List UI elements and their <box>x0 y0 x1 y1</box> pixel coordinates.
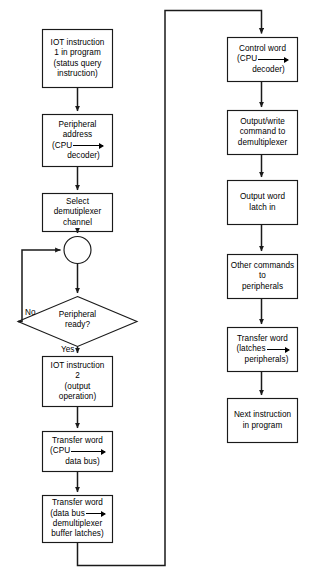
flowchart-canvas: IOT instruction 1 in program (status que… <box>0 0 309 575</box>
node-iot1-shape <box>43 30 113 88</box>
node-transfer-word-databus-shape <box>43 496 113 543</box>
node-next-instruction-shape <box>228 399 298 443</box>
node-peripheral-address-shape <box>43 115 113 167</box>
node-output-write-shape <box>228 111 298 155</box>
node-peripheral-ready-line-2: ready? <box>65 320 90 329</box>
flowchart-vector-layer <box>0 0 309 575</box>
edge-label-yes: Yes <box>61 345 74 354</box>
node-peripheral-ready: Peripheral ready? <box>38 310 118 331</box>
node-transfer-word-latches-shape <box>228 328 298 372</box>
edge-label-no: No <box>25 308 35 317</box>
node-control-word-shape <box>228 38 298 82</box>
node-output-latch-shape <box>228 181 298 225</box>
node-select-demux-shape <box>43 194 113 232</box>
node-junction-shape <box>64 237 91 264</box>
node-peripheral-ready-line-1: Peripheral <box>59 310 96 319</box>
node-transfer-word-cpu-shape <box>43 432 113 472</box>
node-other-commands-shape <box>228 255 298 299</box>
node-iot2-shape <box>43 357 113 407</box>
